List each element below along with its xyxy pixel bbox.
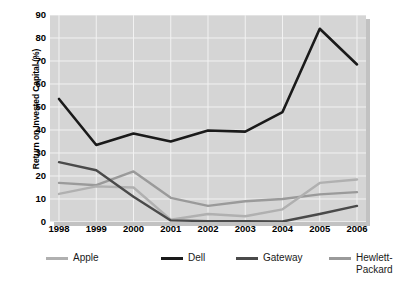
x-axis-tick-label: 2003 bbox=[225, 224, 265, 234]
y-axis-tick-label: 80 bbox=[26, 33, 46, 43]
y-axis-tick-label: 30 bbox=[26, 148, 46, 158]
x-axis-tick-label: 1998 bbox=[39, 224, 79, 234]
legend-item-hewlett-packard[interactable]: Hewlett- Packard bbox=[329, 252, 393, 276]
x-axis-tick-label: 1999 bbox=[76, 224, 116, 234]
chart-legend: AppleDellGatewayHewlett- Packard bbox=[46, 252, 386, 286]
x-axis-tick-label: 2000 bbox=[114, 224, 154, 234]
y-axis-tick-label: 70 bbox=[26, 56, 46, 66]
legend-label: Gateway bbox=[263, 252, 302, 264]
plot-svg bbox=[50, 15, 366, 222]
legend-swatch-line-icon bbox=[161, 257, 183, 260]
y-axis-tick-label: 10 bbox=[26, 194, 46, 204]
legend-swatch-line-icon bbox=[329, 257, 351, 260]
legend-label: Hewlett- Packard bbox=[356, 252, 393, 276]
y-axis-tick-label: 20 bbox=[26, 171, 46, 181]
y-axis-tick-label: 40 bbox=[26, 125, 46, 135]
x-axis-tick-labels: 199819992000200120022003200420052006 bbox=[50, 224, 366, 240]
y-axis-tick-label: 50 bbox=[26, 102, 46, 112]
y-axis-tick-labels: 0102030405060708090 bbox=[26, 15, 46, 222]
x-axis-tick-label: 2005 bbox=[300, 224, 340, 234]
x-axis-tick-label: 2004 bbox=[263, 224, 303, 234]
x-axis-tick-label: 2006 bbox=[337, 224, 377, 234]
legend-swatch-line-icon bbox=[236, 257, 258, 260]
plot-area bbox=[50, 15, 366, 222]
x-axis-tick-label: 2001 bbox=[151, 224, 191, 234]
legend-label: Apple bbox=[73, 252, 99, 264]
y-axis-tick-label: 60 bbox=[26, 79, 46, 89]
legend-item-gateway[interactable]: Gateway bbox=[236, 252, 302, 264]
legend-item-dell[interactable]: Dell bbox=[161, 252, 205, 264]
legend-item-apple[interactable]: Apple bbox=[46, 252, 99, 264]
x-axis-tick-label: 2002 bbox=[188, 224, 228, 234]
legend-label: Dell bbox=[188, 252, 205, 264]
y-axis-tick-label: 90 bbox=[26, 10, 46, 20]
legend-swatch-line-icon bbox=[46, 257, 68, 260]
